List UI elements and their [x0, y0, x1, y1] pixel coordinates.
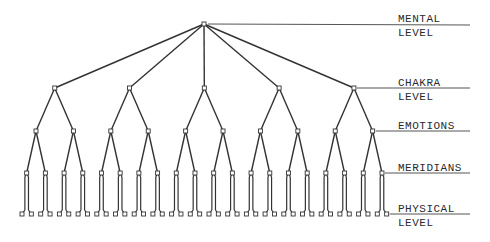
edge	[335, 131, 344, 173]
chakra-node	[277, 86, 281, 90]
edge	[55, 88, 74, 131]
chakra-node	[128, 86, 132, 90]
meridian-node	[193, 171, 197, 175]
physical-node	[123, 212, 127, 216]
physical-node	[310, 212, 314, 216]
edge	[251, 131, 260, 173]
physical-node	[48, 212, 52, 216]
meridian-node	[43, 171, 47, 175]
physical-node	[207, 212, 211, 216]
meridian-node	[212, 171, 216, 175]
physical-node	[39, 212, 43, 216]
emotion-node	[333, 129, 337, 133]
physical-node	[114, 212, 118, 216]
meridian-node	[99, 171, 103, 175]
edge	[73, 131, 82, 173]
meridian-node	[156, 171, 160, 175]
mental-node	[202, 22, 206, 26]
edge	[55, 24, 204, 88]
physical-node	[29, 212, 33, 216]
meridian-node	[286, 171, 290, 175]
meridian-node	[324, 171, 328, 175]
edge	[204, 24, 354, 88]
edge	[111, 88, 130, 131]
label-physical-level: LEVEL	[398, 217, 434, 229]
physical-node	[85, 212, 89, 216]
meridian-node	[230, 171, 234, 175]
emotion-node	[184, 129, 188, 133]
emotion-node	[296, 129, 300, 133]
physical-node	[366, 212, 370, 216]
edge	[223, 131, 232, 173]
physical-node	[188, 212, 192, 216]
edge	[354, 88, 373, 131]
physical-node	[347, 212, 351, 216]
meridian-node	[174, 171, 178, 175]
edge	[139, 131, 148, 173]
edge	[326, 131, 335, 173]
emotion-node	[371, 129, 375, 133]
physical-node	[67, 212, 71, 216]
label-chakra: CHAKRA	[398, 77, 441, 89]
label-emotions: EMOTIONS	[398, 120, 455, 132]
edge	[101, 131, 110, 173]
edge	[64, 131, 73, 173]
physical-node	[263, 212, 267, 216]
meridian-node	[249, 171, 253, 175]
physical-node	[76, 212, 80, 216]
meridian-node	[118, 171, 122, 175]
meridian-node	[25, 171, 29, 175]
edge	[279, 88, 298, 131]
physical-node	[357, 212, 361, 216]
physical-node	[272, 212, 276, 216]
edge	[260, 88, 279, 131]
physical-node	[329, 212, 333, 216]
physical-node	[385, 212, 389, 216]
physical-node	[179, 212, 183, 216]
meridian-node	[380, 171, 384, 175]
emotion-node	[258, 129, 262, 133]
edge	[288, 131, 297, 173]
physical-node	[104, 212, 108, 216]
edge	[130, 88, 149, 131]
physical-node	[338, 212, 342, 216]
chakra-node	[352, 86, 356, 90]
edge	[27, 131, 36, 173]
edge	[186, 131, 195, 173]
chakra-node	[53, 86, 57, 90]
physical-node	[95, 212, 99, 216]
edge	[335, 88, 354, 131]
emotion-node	[221, 129, 225, 133]
meridian-node	[137, 171, 141, 175]
meridian-node	[361, 171, 365, 175]
meridian-node	[305, 171, 309, 175]
edge	[204, 88, 223, 131]
physical-node	[319, 212, 323, 216]
hierarchy-diagram: MENTAL LEVEL CHAKRA LEVEL EMOTIONS MERID…	[0, 0, 490, 242]
edge	[176, 131, 185, 173]
physical-node	[291, 212, 295, 216]
label-mental: MENTAL	[398, 13, 441, 25]
label-mental-level: LEVEL	[398, 27, 434, 39]
edge	[373, 131, 382, 173]
emotion-node	[109, 129, 113, 133]
physical-node	[375, 212, 379, 216]
physical-node	[20, 212, 24, 216]
physical-node	[226, 212, 230, 216]
meridian-node	[268, 171, 272, 175]
emotion-node	[71, 129, 75, 133]
physical-node	[235, 212, 239, 216]
physical-node	[142, 212, 146, 216]
edge	[204, 24, 279, 88]
physical-node	[57, 212, 61, 216]
physical-node	[244, 212, 248, 216]
meridian-node	[81, 171, 85, 175]
physical-node	[170, 212, 174, 216]
physical-node	[132, 212, 136, 216]
physical-node	[254, 212, 258, 216]
edge	[363, 131, 372, 173]
physical-node	[301, 212, 305, 216]
chakra-node	[202, 86, 206, 90]
physical-node	[282, 212, 286, 216]
physical-node	[160, 212, 164, 216]
